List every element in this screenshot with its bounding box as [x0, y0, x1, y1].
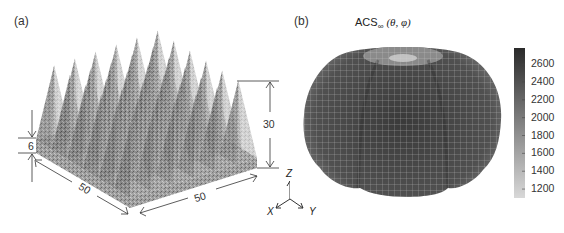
- colorbar-tick-label: 1400: [531, 164, 554, 176]
- colorbar-gradient: [514, 48, 525, 198]
- title-subscript: ∞: [378, 22, 384, 31]
- dim-pyramid-height: 30: [263, 118, 275, 130]
- acs-surface-plot: [298, 40, 508, 220]
- colorbar-tick-label: 1200: [531, 182, 554, 194]
- colorbar-tick-label: 1800: [531, 129, 554, 141]
- plot-title: ACS∞ (θ, φ): [355, 16, 411, 31]
- colorbar-tick-label: 2200: [531, 93, 554, 105]
- colorbar-tick-label: 1600: [531, 146, 554, 158]
- pyramid-absorber-diagram: 6 30 50 50: [0, 0, 290, 233]
- dim-side-y: 50: [193, 189, 208, 204]
- pyramid-face: [36, 65, 54, 149]
- pyramid-face: [236, 80, 257, 164]
- dim-base-height: 6: [28, 140, 34, 152]
- colorbar-tick-label: 2000: [531, 111, 554, 123]
- axis-z-label: Z: [286, 168, 292, 179]
- colorbar: [514, 48, 528, 198]
- colorbar-tick-label: 2600: [531, 57, 554, 69]
- title-main: ACS: [355, 16, 378, 28]
- panel-b-label: (b): [294, 14, 309, 28]
- surface-mesh: [298, 40, 508, 220]
- axis-x-label: X: [267, 206, 274, 217]
- title-args: (θ, φ): [386, 16, 410, 28]
- colorbar-tick-label: 2400: [531, 75, 554, 87]
